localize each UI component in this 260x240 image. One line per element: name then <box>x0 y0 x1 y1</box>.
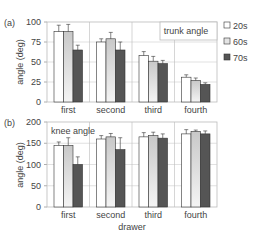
category-label: first <box>61 105 76 115</box>
bar-20s <box>54 32 64 102</box>
y-tick-label: 75 <box>31 37 41 47</box>
bar-60s <box>64 32 74 102</box>
category-label: first <box>61 210 76 220</box>
bar-70s <box>116 50 126 102</box>
panel-a-title: trunk angle <box>164 26 209 36</box>
bar-20s <box>182 77 192 102</box>
bar-20s <box>139 56 149 102</box>
y-tick-label: 0 <box>36 202 41 212</box>
panel-b-title: knee angle <box>51 126 95 136</box>
bar-70s <box>201 84 211 102</box>
bar-70s <box>73 165 83 208</box>
y-tick-label: 100 <box>26 160 41 170</box>
panel-a-ylabel: angle (deg) <box>15 39 25 85</box>
panel-a-category-labels: firstsecondthirdfourth <box>61 105 207 115</box>
bar-60s <box>191 131 201 207</box>
bar-70s <box>116 150 126 207</box>
panel-a-y-axis: 0255075100 <box>26 17 47 107</box>
y-tick-label: 200 <box>26 117 41 127</box>
bar-60s <box>191 80 201 102</box>
panel-b-ylabel: angle (deg) <box>15 142 25 188</box>
bar-70s <box>73 50 83 102</box>
legend-label-60s: 60s <box>233 37 248 47</box>
y-tick-label: 0 <box>36 97 41 107</box>
panel-b-category-labels: firstsecondthirdfourth <box>61 210 207 220</box>
legend-label-20s: 20s <box>233 21 248 31</box>
y-tick-label: 50 <box>31 57 41 67</box>
panel-a-label: (a) <box>4 18 15 28</box>
bar-20s <box>139 137 149 207</box>
legend-swatch-20s <box>224 22 230 28</box>
x-axis-label: drawer <box>118 222 146 232</box>
category-label: second <box>96 105 125 115</box>
chart-figure: (a) angle (deg) 0255075100 trunk angle f… <box>0 0 260 240</box>
legend: 20s60s70s <box>224 21 248 63</box>
panel-b-y-axis: 050100150200 <box>26 117 47 212</box>
bar-20s <box>97 139 107 207</box>
y-tick-label: 150 <box>26 138 41 148</box>
bar-70s <box>201 134 211 207</box>
bar-20s <box>54 145 64 207</box>
y-tick-label: 50 <box>31 181 41 191</box>
panel-b: (b) angle (deg) 050100150200 knee angle … <box>4 117 217 232</box>
legend-swatch-70s <box>224 54 230 60</box>
y-tick-label: 100 <box>26 17 41 27</box>
bar-20s <box>182 134 192 207</box>
y-tick-label: 25 <box>31 77 41 87</box>
bar-60s <box>149 136 159 207</box>
bar-60s <box>106 39 116 102</box>
bar-20s <box>97 42 107 102</box>
category-label: fourth <box>184 210 207 220</box>
bar-70s <box>158 64 168 102</box>
category-label: third <box>144 210 162 220</box>
category-label: second <box>96 210 125 220</box>
category-label: third <box>144 105 162 115</box>
bar-60s <box>106 137 116 207</box>
bar-70s <box>158 138 168 207</box>
legend-swatch-60s <box>224 38 230 44</box>
panel-b-label: (b) <box>4 118 15 128</box>
panel-a: (a) angle (deg) 0255075100 trunk angle f… <box>4 17 217 115</box>
legend-label-70s: 70s <box>233 53 248 63</box>
bar-60s <box>149 61 159 102</box>
bar-60s <box>64 145 74 207</box>
category-label: fourth <box>184 105 207 115</box>
